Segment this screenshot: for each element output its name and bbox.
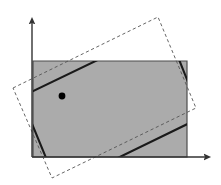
center-point-marker (59, 93, 66, 100)
geometry-diagram (0, 0, 221, 185)
figure-container (0, 0, 221, 185)
gray-region-polygon (33, 61, 187, 157)
